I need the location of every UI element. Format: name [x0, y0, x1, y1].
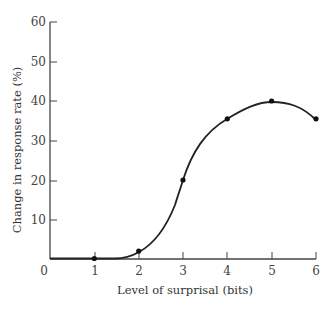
y-tick-label: 10 [31, 213, 46, 227]
x-tick-label: 3 [179, 264, 187, 278]
x-tick-label: 2 [135, 264, 143, 278]
y-axis-title: Change in response rate (%) [10, 67, 24, 234]
data-point [313, 116, 318, 121]
data-point [136, 249, 141, 254]
x-tick-labels: 0 1 2 3 4 5 6 [40, 264, 320, 278]
axes [50, 22, 316, 259]
x-tick-label: 0 [40, 264, 48, 278]
data-point [269, 98, 274, 103]
x-tick-label: 4 [223, 264, 231, 278]
y-tick-label: 60 [31, 15, 46, 29]
data-point [225, 116, 230, 121]
x-tick-label: 6 [312, 264, 320, 278]
y-tick-label: 20 [31, 174, 46, 188]
y-tick-label: 40 [31, 94, 46, 108]
y-tick-label: 50 [31, 55, 46, 69]
chart: 60 50 40 30 20 10 0 1 2 3 4 5 6 Level of… [0, 0, 335, 309]
data-point [180, 177, 185, 182]
data-point [92, 256, 97, 261]
x-axis-title: Level of surprisal (bits) [117, 283, 253, 297]
y-ticks [50, 22, 57, 220]
y-tick-labels: 60 50 40 30 20 10 [31, 15, 46, 227]
x-tick-label: 5 [268, 264, 276, 278]
y-tick-label: 30 [31, 134, 46, 148]
x-ticks [95, 252, 316, 259]
data-markers [92, 98, 319, 261]
x-tick-label: 1 [91, 264, 99, 278]
